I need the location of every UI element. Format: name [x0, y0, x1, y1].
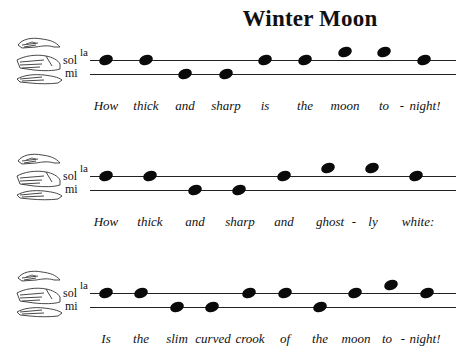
note-la — [383, 278, 399, 292]
note-mi — [169, 300, 185, 314]
note-sol — [133, 286, 149, 300]
note-sol — [241, 286, 257, 300]
hand-signs-icon — [14, 266, 66, 320]
lyric-word: slim — [166, 331, 188, 347]
lyric-word: the — [312, 331, 328, 347]
lyric-word: of — [280, 331, 290, 347]
note-sol — [347, 286, 363, 300]
lyric-word: Is — [101, 331, 110, 347]
lyric-word: moon — [342, 331, 371, 347]
lyric-word: crook — [235, 331, 264, 347]
lyric-word: night! — [409, 331, 440, 347]
lyric-word: - — [401, 331, 405, 347]
label-la: la — [80, 279, 88, 291]
lyric-word: curved — [195, 331, 230, 347]
note-sol — [98, 286, 114, 300]
note-sol — [419, 286, 435, 300]
note-mi — [312, 300, 328, 314]
label-mi: mi — [65, 299, 78, 314]
note-sol — [277, 286, 293, 300]
music-system-3: la sol mi Istheslimcurvedcrookofthemoont… — [0, 0, 468, 362]
lyric-word: to — [382, 331, 392, 347]
lyric-word: the — [133, 331, 149, 347]
note-mi — [204, 300, 220, 314]
staff-line-mi — [90, 307, 456, 308]
